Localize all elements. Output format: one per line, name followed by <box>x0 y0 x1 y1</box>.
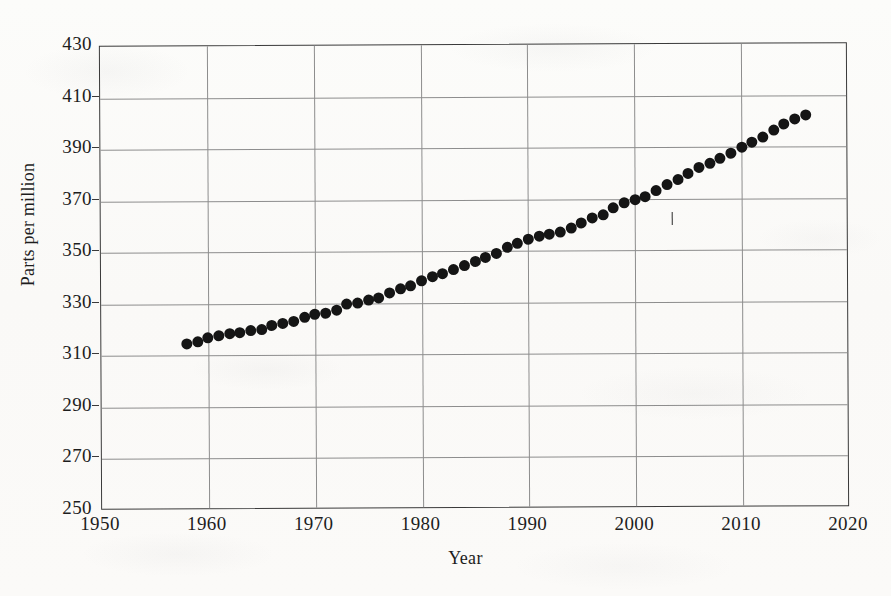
data-series-layer <box>100 43 848 509</box>
data-point <box>491 248 502 259</box>
gridline-horizontal-350 <box>101 249 847 254</box>
y-tick-mark-310 <box>92 353 99 354</box>
y-tick-mark-350 <box>92 250 99 251</box>
data-point <box>576 217 587 228</box>
data-point <box>320 308 331 319</box>
tick-mark-artifact-icon <box>671 212 672 225</box>
data-point <box>395 284 406 295</box>
x-tick-label-1950: 1950 <box>80 513 120 535</box>
y-tick-label-290: 290 <box>62 394 92 416</box>
y-tick-mark-410 <box>92 96 99 97</box>
y-tick-mark-330 <box>92 302 99 303</box>
data-point <box>277 318 288 329</box>
data-point <box>704 158 715 169</box>
data-point <box>331 304 342 315</box>
data-point <box>587 213 598 224</box>
data-point <box>672 174 683 185</box>
data-point <box>683 168 694 179</box>
x-tick-label-1960: 1960 <box>187 513 227 535</box>
data-point <box>224 328 235 339</box>
y-tick-mark-390 <box>92 147 99 148</box>
data-point <box>256 324 267 335</box>
y-tick-label-430: 430 <box>62 33 92 55</box>
x-tick-label-1990: 1990 <box>508 513 548 535</box>
vertical-gridlines <box>100 43 846 47</box>
gridline-vertical-1980 <box>420 45 423 507</box>
data-point <box>715 153 726 164</box>
data-point <box>192 336 203 347</box>
y-tick-label-330: 330 <box>62 291 92 313</box>
data-point <box>469 256 480 267</box>
horizontal-gridlines <box>100 43 846 47</box>
data-point <box>693 162 704 173</box>
y-tick-label-270: 270 <box>62 445 92 467</box>
y-tick-mark-370 <box>92 199 99 200</box>
data-point <box>384 288 395 299</box>
data-point <box>565 223 576 234</box>
data-point <box>245 325 256 336</box>
data-point <box>597 210 608 221</box>
data-point <box>661 179 672 190</box>
gridline-horizontal-370 <box>101 198 847 203</box>
data-point <box>405 280 416 291</box>
data-point <box>789 113 800 124</box>
data-point <box>725 148 736 159</box>
plot-area-frame <box>99 42 849 510</box>
data-point <box>651 185 662 196</box>
data-point <box>299 312 310 323</box>
gridline-horizontal-330 <box>101 301 847 306</box>
gridline-vertical-1970 <box>314 46 317 508</box>
gridline-horizontal-390 <box>100 146 846 151</box>
y-tick-mark-270 <box>92 456 99 457</box>
data-point <box>768 124 779 135</box>
x-axis-tick-labels: 19501960197019801990200020102020 <box>100 513 848 543</box>
data-point <box>373 293 384 304</box>
data-point <box>448 264 459 275</box>
data-point <box>267 320 278 331</box>
data-point <box>288 316 299 327</box>
data-point <box>235 327 246 338</box>
chart-page: 250270290310330350370390410430 195019601… <box>0 0 891 596</box>
data-point <box>213 330 224 341</box>
y-tick-label-370: 370 <box>62 188 92 210</box>
y-tick-mark-290 <box>92 405 99 406</box>
data-point <box>608 202 619 213</box>
data-point <box>555 227 566 238</box>
x-tick-label-2020: 2020 <box>828 513 868 535</box>
gridline-vertical-1960 <box>207 46 210 508</box>
data-point <box>181 338 192 349</box>
data-point <box>544 229 555 240</box>
gridline-horizontal-270 <box>102 456 848 461</box>
gridline-vertical-1990 <box>527 45 530 507</box>
data-point <box>757 131 768 142</box>
x-tick-label-2000: 2000 <box>614 513 654 535</box>
x-tick-label-1970: 1970 <box>294 513 334 535</box>
gridline-vertical-2000 <box>634 44 637 506</box>
data-point <box>640 191 651 202</box>
data-point <box>779 119 790 130</box>
y-tick-label-410: 410 <box>62 85 92 107</box>
x-axis-title-wrapper: Year <box>0 548 891 569</box>
data-point <box>512 237 523 248</box>
x-axis-title: Year <box>448 548 482 569</box>
data-point <box>533 231 544 242</box>
data-point <box>459 260 470 271</box>
gridline-vertical-2010 <box>741 44 744 506</box>
y-axis-title: Parts per million <box>18 135 39 315</box>
y-tick-label-310: 310 <box>62 342 92 364</box>
y-tick-label-390: 390 <box>62 136 92 158</box>
data-point <box>427 271 438 282</box>
data-point <box>363 295 374 306</box>
gridline-horizontal-290 <box>102 404 848 409</box>
x-tick-label-1980: 1980 <box>401 513 441 535</box>
data-point <box>437 268 448 279</box>
y-tick-label-350: 350 <box>62 239 92 261</box>
x-tick-label-2010: 2010 <box>721 513 761 535</box>
y-axis-tick-labels: 250270290310330350370390410430 <box>0 44 92 508</box>
gridline-horizontal-410 <box>100 95 846 100</box>
gridline-horizontal-310 <box>101 353 847 358</box>
data-point <box>480 252 491 263</box>
data-point <box>800 109 811 120</box>
